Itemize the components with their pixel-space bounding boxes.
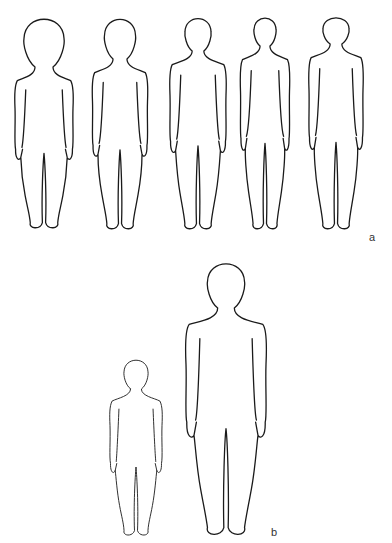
body-outline-path: [110, 360, 163, 535]
panel-b-figures: [110, 264, 267, 535]
body-outline-path: [170, 19, 227, 229]
body-outline-figure: [309, 18, 364, 229]
body-outline-path: [309, 18, 364, 229]
body-outline-path: [92, 19, 148, 228]
figure-canvas: [0, 0, 392, 543]
body-outline-figure: [186, 264, 267, 534]
body-outline-figure: [15, 19, 74, 228]
body-outline-figure: [240, 18, 290, 229]
body-outline-figure: [92, 19, 148, 228]
body-outline-figure: [170, 19, 227, 229]
body-outline-path: [15, 19, 74, 228]
panel-label-a: a: [369, 232, 375, 243]
body-outline-path: [186, 264, 267, 534]
panel-label-b: b: [271, 527, 277, 538]
panel-a-figures: [15, 18, 364, 229]
body-outline-figure: [110, 360, 163, 535]
body-outline-path: [240, 18, 290, 229]
